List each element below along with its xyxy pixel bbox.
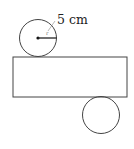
bottom-circle: [83, 97, 120, 134]
radius-tick-label: r: [46, 30, 49, 36]
lateral-rectangle: [13, 57, 127, 97]
radius-label: 5 cm: [57, 12, 88, 27]
cylinder-net-diagram: r 5 cm: [0, 0, 134, 149]
